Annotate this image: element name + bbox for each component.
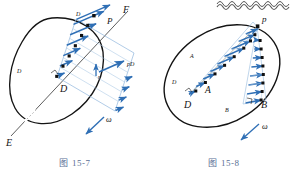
figure-sheet: 𝉥D 𝉥D 𝉥pD 𝉥r P F D E ω [0,0,298,177]
omega-arrow [241,124,259,140]
label-vA: 𝉥A [189,53,194,59]
point-p-marker [256,24,260,28]
figure-15-8: 𝉥A 𝉥D 𝉥B D A B p ω [149,0,298,177]
figure-15-7: 𝉥D 𝉥D 𝉥pD 𝉥r P F D E ω [0,0,149,177]
label-omega: ω [106,115,112,124]
scan-artifact-wavy-line [217,2,289,10]
caption-prefix: 图 [208,158,218,168]
omega-arrow [86,117,104,134]
right-angle-mark-D [185,88,192,92]
label-point-B: B [261,99,267,110]
caption-figure-15-8: 图15-8 [149,156,298,169]
caption-number: 15-7 [72,158,91,168]
label-point-p: p [261,14,267,24]
body-outline [149,4,298,149]
caption-figure-15-7: 图15-7 [0,156,149,169]
right-angle-mark-D [51,70,58,74]
label-point-D: D [183,99,192,110]
label-vD-top: 𝉥D [75,11,81,17]
label-point-D: D [59,83,68,94]
label-vpD: 𝉥pD [126,61,135,67]
label-point-F: F [122,4,130,15]
label-vD: 𝉥D [171,79,177,85]
label-vB: 𝉥B [225,107,229,113]
label-omega: ω [262,122,268,131]
caption-prefix: 图 [59,158,69,168]
label-point-A: A [204,85,211,95]
velocity-arrows [57,5,111,77]
body-outline [10,18,104,124]
label-point-P: P [106,16,113,26]
label-vD-left: 𝉥D [16,68,22,74]
label-point-E: E [5,137,12,148]
caption-number: 15-8 [221,158,240,168]
